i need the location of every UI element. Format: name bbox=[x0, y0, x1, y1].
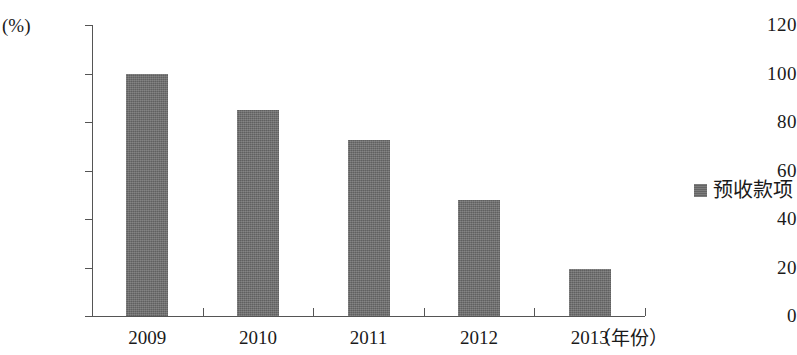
x-axis-tick-label: 2011 bbox=[317, 327, 421, 349]
bar bbox=[237, 110, 279, 316]
x-axis-tick-label: 2009 bbox=[95, 327, 199, 349]
chart-legend: 预收款项 bbox=[694, 180, 793, 200]
y-axis-tick-label: 40 bbox=[751, 209, 797, 228]
bar bbox=[458, 200, 500, 316]
bar-chart: (%) 020406080100120 20092010201120122013… bbox=[0, 0, 797, 355]
legend-swatch-icon bbox=[694, 184, 707, 197]
y-axis-tick-label: 80 bbox=[751, 112, 797, 131]
bar bbox=[348, 140, 390, 316]
y-axis-tick bbox=[85, 171, 93, 172]
x-axis-tick bbox=[645, 308, 646, 316]
bar bbox=[126, 74, 168, 317]
x-axis-tick-label: 2012 bbox=[427, 327, 531, 349]
y-axis-tick bbox=[85, 122, 93, 123]
x-axis-tick bbox=[313, 308, 314, 316]
y-axis-tick bbox=[85, 219, 93, 220]
x-axis-tick bbox=[92, 308, 93, 316]
x-axis-tick-label: 2010 bbox=[206, 327, 310, 349]
x-axis-tick bbox=[424, 308, 425, 316]
y-axis-tick bbox=[85, 74, 93, 75]
y-axis-tick-label: 20 bbox=[751, 258, 797, 277]
y-axis-tick-label: 100 bbox=[751, 64, 797, 83]
bar bbox=[569, 269, 611, 316]
legend-entry-label: 预收款项 bbox=[713, 180, 793, 200]
y-axis-tick-label: 0 bbox=[751, 306, 797, 325]
x-axis-tick bbox=[534, 308, 535, 316]
y-axis-tick-label: 120 bbox=[751, 15, 797, 34]
y-axis-tick-label: 60 bbox=[751, 161, 797, 180]
y-axis-unit-label: (%) bbox=[2, 16, 30, 35]
y-axis-tick bbox=[85, 25, 93, 26]
x-axis-title: （年份） bbox=[592, 327, 668, 349]
x-axis-line bbox=[92, 316, 645, 317]
x-axis-tick bbox=[203, 308, 204, 316]
y-axis-tick bbox=[85, 268, 93, 269]
